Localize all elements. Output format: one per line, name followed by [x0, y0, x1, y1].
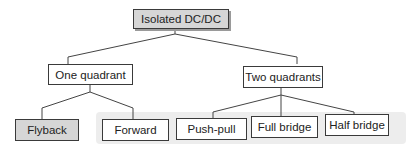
root-node-isolated-dcdc: Isolated DC/DC: [133, 9, 229, 29]
node-two-quadrants: Two quadrants: [243, 66, 323, 88]
leaf-push-pull: Push-pull: [176, 118, 247, 140]
node-label: One quadrant: [55, 69, 125, 81]
node-label: Two quadrants: [245, 71, 320, 83]
leaf-label: Full bridge: [258, 121, 312, 133]
leaf-label: Half bridge: [329, 119, 385, 131]
leaf-forward: Forward: [102, 119, 169, 141]
node-one-quadrant: One quadrant: [48, 64, 133, 85]
leaf-flyback: Flyback: [15, 119, 79, 141]
root-node-label: Isolated DC/DC: [141, 13, 221, 25]
leaf-half-bridge: Half bridge: [325, 114, 389, 136]
leaf-label: Forward: [114, 124, 156, 136]
leaf-full-bridge: Full bridge: [251, 116, 318, 138]
leaf-label: Flyback: [27, 124, 67, 136]
leaf-label: Push-pull: [188, 123, 236, 135]
